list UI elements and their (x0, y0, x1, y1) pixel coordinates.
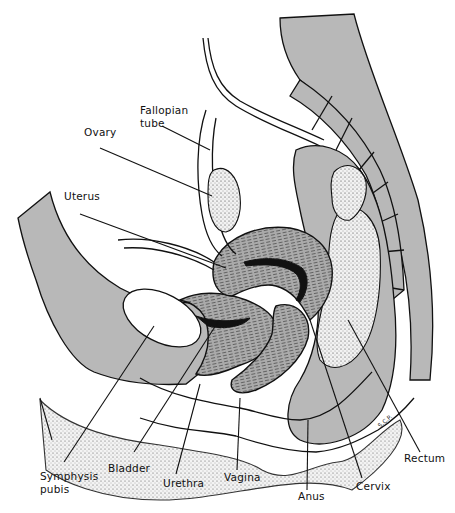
label-uterus: Uterus (64, 190, 100, 203)
label-symphysis-pubis-line1: Symphysis (40, 470, 98, 483)
label-fallopian-tube-line2: tube (140, 117, 188, 130)
label-bladder: Bladder (108, 462, 150, 475)
pubic-bone (18, 192, 209, 385)
label-rectum: Rectum (404, 452, 445, 465)
leader-vagina (237, 398, 240, 470)
label-symphysis-pubis-line2: pubis (40, 483, 98, 496)
label-fallopian-tube-line1: Fallopian (140, 104, 188, 117)
label-cervix: Cervix (356, 480, 391, 493)
ovary (208, 168, 240, 232)
label-anus: Anus (298, 490, 325, 503)
pelvic-anatomy-diagram: S.C.P. (0, 0, 455, 513)
label-vagina: Vagina (224, 471, 261, 484)
label-symphysis-pubis: Symphysis pubis (40, 470, 98, 496)
leader-ovary (100, 148, 212, 196)
label-fallopian-tube: Fallopian tube (140, 104, 188, 130)
label-urethra: Urethra (163, 477, 204, 490)
label-ovary: Ovary (84, 126, 116, 139)
